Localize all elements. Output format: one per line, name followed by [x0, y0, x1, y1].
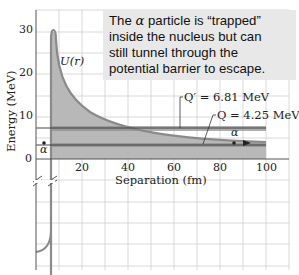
x-tick: 20 — [75, 161, 89, 174]
alpha-particle-outside — [232, 141, 236, 145]
x-tick: 100 — [256, 161, 277, 174]
callout-text: particle is “trapped” — [144, 13, 261, 28]
alpha-inside-label: α — [40, 143, 47, 156]
q-prime-label: Q′ = 6.81 MeV — [184, 90, 269, 104]
callout-text: The — [109, 13, 135, 28]
alpha-outside-label: α — [231, 126, 238, 139]
y-tick: 10 — [19, 109, 33, 122]
alpha-symbol: α — [135, 13, 144, 28]
callout-text: inside the nucleus but can — [109, 29, 290, 45]
callout-text: potential barrier to escape. — [109, 61, 290, 77]
y-tick: 20 — [19, 66, 33, 79]
x-axis-label: Separation (fm) — [115, 173, 207, 187]
q-prime-leader — [180, 97, 183, 128]
y-tick: 30 — [19, 23, 33, 36]
callout-text: still tunnel through the — [109, 45, 290, 61]
q-label: Q = 4.25 MeV — [217, 108, 299, 122]
well-bottom — [36, 230, 51, 252]
axis-break-gap — [34, 180, 55, 183]
x-tick: 80 — [213, 161, 227, 174]
y-axis-label: Energy (MeV) — [4, 82, 18, 152]
explanation-callout: The α particle is “trapped” inside the n… — [103, 10, 296, 80]
potential-label: U(r) — [60, 54, 84, 68]
y-tick: 0 — [25, 152, 32, 165]
